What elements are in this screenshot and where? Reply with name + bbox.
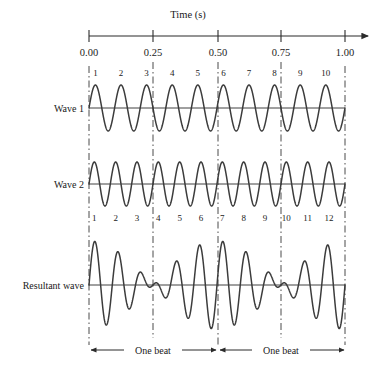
beat-annotations: One beat One beat xyxy=(91,343,344,357)
cycle-number: 5 xyxy=(177,213,182,223)
beat-label-left: One beat xyxy=(135,345,171,356)
wave1-cycle-numbers: 12345678910 xyxy=(93,68,331,78)
axis-tick-label-0: 0.00 xyxy=(80,47,98,58)
axis-title: Time (s) xyxy=(170,9,206,21)
cycle-number: 6 xyxy=(221,68,226,78)
cycle-number: 8 xyxy=(241,213,246,223)
cycle-number: 3 xyxy=(135,213,140,223)
cycle-number: 10 xyxy=(321,68,331,78)
cycle-number: 3 xyxy=(144,68,149,78)
cycle-number: 2 xyxy=(119,68,124,78)
wave1-group: Wave 1 12345678910 xyxy=(54,68,345,131)
cycle-number: 4 xyxy=(170,68,175,78)
cycle-number: 1 xyxy=(93,68,98,78)
wave1-label: Wave 1 xyxy=(54,103,84,114)
cycle-number: 12 xyxy=(325,213,334,223)
beats-figure: Time (s) 0.00 0.25 0.50 0.75 1.00 Wave 1 xyxy=(0,0,376,367)
resultant-label: Resultant wave xyxy=(23,280,85,291)
time-axis: Time (s) 0.00 0.25 0.50 0.75 1.00 xyxy=(80,9,368,58)
wave2-label: Wave 2 xyxy=(54,179,84,190)
resultant-group: Resultant wave xyxy=(23,241,345,328)
cycle-number: 1 xyxy=(92,213,97,223)
cycle-number: 7 xyxy=(247,68,252,78)
axis-tick-label-2: 0.50 xyxy=(209,47,227,58)
wave1-curve xyxy=(89,85,345,131)
cycle-number: 2 xyxy=(113,213,118,223)
axis-tick-label-3: 0.75 xyxy=(272,47,290,58)
axis-tick-label-4: 1.00 xyxy=(336,47,354,58)
cycle-number: 8 xyxy=(272,68,277,78)
cycle-number: 9 xyxy=(298,68,303,78)
beats-diagram-svg: Time (s) 0.00 0.25 0.50 0.75 1.00 Wave 1 xyxy=(0,0,376,367)
axis-tick-label-1: 0.25 xyxy=(144,47,162,58)
wave2-group: Wave 2 123456789101112 xyxy=(54,162,345,223)
cycle-number: 5 xyxy=(196,68,201,78)
cycle-number: 6 xyxy=(199,213,204,223)
cycle-number: 11 xyxy=(303,213,312,223)
beat-label-right: One beat xyxy=(263,345,299,356)
cycle-number: 7 xyxy=(220,213,225,223)
cycle-number: 4 xyxy=(156,213,161,223)
cycle-number: 9 xyxy=(263,213,268,223)
wave2-cycle-numbers: 123456789101112 xyxy=(92,213,333,223)
cycle-number: 10 xyxy=(282,213,292,223)
